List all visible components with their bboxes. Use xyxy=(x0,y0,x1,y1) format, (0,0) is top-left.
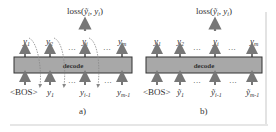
output-ellipsis: ··· xyxy=(228,45,236,54)
decoding-diagram: loss(ỹi, yi) y1 y2 ··· yi ··· ym decode xyxy=(0,0,276,132)
input-arrows xyxy=(157,76,252,85)
input-yi-1: yi-1 xyxy=(79,87,91,98)
input-bos: <BOS> xyxy=(143,87,171,97)
input-ellipsis: ··· xyxy=(193,78,201,87)
output-y2: y2 xyxy=(45,36,53,47)
output-ellipsis: ··· xyxy=(193,45,201,54)
output-ym: ym xyxy=(117,36,127,47)
loss-label-b: loss(ỹi, yi) xyxy=(196,6,232,17)
panel-b: loss(ỹi, yi) y1 y2 ··· yi ··· ym decode … xyxy=(143,6,262,116)
output-yi: yi xyxy=(81,36,88,47)
input-ellipsis: ··· xyxy=(68,78,76,87)
output-ym: ym xyxy=(249,36,259,47)
output-ellipsis: ··· xyxy=(68,45,76,54)
loss-label-a: loss(ỹi, yi) xyxy=(67,6,103,17)
output-arrows xyxy=(157,48,252,57)
output-y1: y1 xyxy=(153,36,161,47)
input-bos: <BOS> xyxy=(10,87,38,97)
decoder-label: decode xyxy=(194,62,215,70)
output-yi: yi xyxy=(212,36,219,47)
panel-a: loss(ỹi, yi) y1 y2 ··· yi ··· ym decode xyxy=(10,6,132,116)
input-ytilde-i-1: ỹi-1 xyxy=(210,87,222,98)
decoder-label: decode xyxy=(63,62,84,70)
input-ellipsis: ··· xyxy=(229,78,237,87)
output-y2: y2 xyxy=(176,36,184,47)
output-ellipsis: ··· xyxy=(103,45,111,54)
input-ytilde-m-1: ỹm-1 xyxy=(245,87,259,98)
output-y1: y1 xyxy=(22,36,30,47)
caption-b: b) xyxy=(200,106,208,116)
input-ellipsis: ··· xyxy=(104,78,112,87)
caption-a: a) xyxy=(79,106,86,116)
input-y1: y1 xyxy=(46,87,54,98)
input-ytilde1: ỹ1 xyxy=(176,87,184,98)
input-ym-1: ym-1 xyxy=(116,87,130,98)
